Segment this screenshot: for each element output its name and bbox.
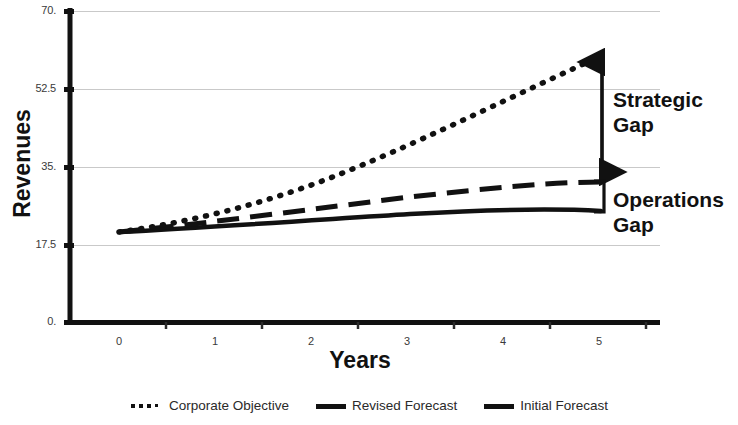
y-tick-label-17-5: 17.5 [22,238,56,250]
x-tick-label-4: 4 [488,335,518,347]
legend-label-initial-forecast: Initial Forecast [520,398,608,413]
legend-swatch-initial [483,400,515,412]
x-tick-label-2: 2 [296,335,326,347]
strategic-gap-line-1: Strategic [613,88,703,113]
operations-gap-line-2: Gap [613,213,724,238]
legend-label-revised-forecast: Revised Forecast [352,398,457,413]
legend-item-corporate-objective: Corporate Objective [130,398,289,413]
y-tick-label-52-5: 52.5 [22,82,56,94]
x-tick-label-0: 0 [104,335,134,347]
x-tick-label-3: 3 [392,335,422,347]
legend-item-revised-forecast: Revised Forecast [315,398,457,413]
x-tick-label-1: 1 [200,335,230,347]
x-axis-title: Years [260,347,460,374]
strategic-gap-line-2: Gap [613,113,703,138]
y-axis-title: Revenues [9,104,36,224]
legend-label-corporate-objective: Corporate Objective [169,398,289,413]
operations-gap-line-1: Operations [613,188,724,213]
y-tick-label-70: 70. [22,4,56,16]
chart-legend: Corporate Objective Revised Forecast Ini… [0,398,738,413]
legend-item-initial-forecast: Initial Forecast [483,398,608,413]
operations-gap-bracket [594,181,604,212]
legend-swatch-revised [315,400,347,412]
revenue-gap-chart: 70. 52.5 35. 17.5 0. 0 1 2 3 4 5 Revenue… [0,0,738,425]
strategic-gap-label: Strategic Gap [613,88,703,138]
x-tick-label-5: 5 [584,335,614,347]
legend-swatch-dotted [130,400,164,412]
series-revised-forecast [119,182,601,232]
series-initial-forecast [119,210,601,232]
y-tick-label-0: 0. [22,315,56,327]
operations-gap-label: Operations Gap [613,188,724,238]
